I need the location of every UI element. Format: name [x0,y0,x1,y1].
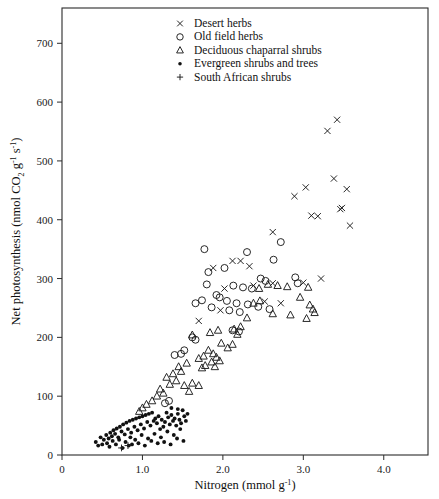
data-point-dot-filled [169,442,173,446]
series-group [161,239,301,407]
data-point-circle-open [230,282,237,289]
data-point-triangle-open [169,370,176,377]
y-tick-label: 200 [37,331,54,343]
data-point-dot-filled [123,432,127,436]
data-point-circle-open [248,285,255,292]
data-point-dot-filled [168,422,172,426]
legend-marker-triangle-open [177,47,184,53]
data-point-circle-open [221,264,228,271]
data-point-circle-open [203,281,210,288]
x-axis-title: Nitrogen (mmol g-1) [194,478,295,493]
data-point-cross-x [308,213,314,219]
data-point-cross-x [270,229,276,235]
data-point-triangle-open [296,293,303,300]
x-tick-label: 4.0 [377,463,391,475]
data-point-cross-x [291,193,297,199]
data-point-circle-open [161,400,168,407]
legend-marker-plus [177,74,183,80]
data-point-triangle-open [181,382,188,389]
data-point-circle-open [208,304,215,311]
data-point-triangle-open [256,297,263,304]
data-point-circle-open [205,269,212,276]
data-point-dot-filled [139,422,143,426]
data-point-dot-filled [182,414,186,418]
data-point-dot-filled [129,431,133,435]
data-point-dot-filled [169,406,173,410]
data-point-cross-x [237,258,243,264]
data-point-dot-filled [136,441,140,445]
data-points-layer [94,117,353,452]
data-point-triangle-open [189,379,196,386]
data-point-cross-x [221,285,227,291]
data-point-dot-filled [176,412,180,416]
data-point-dot-filled [163,420,167,424]
data-point-triangle-open [229,340,236,347]
data-point-triangle-open [303,315,310,322]
data-point-dot-filled [108,431,112,435]
legend-label: Evergreen shrubs and trees [194,57,319,70]
data-point-triangle-open [218,339,225,346]
data-point-dot-filled [94,440,98,444]
data-point-dot-filled [175,437,179,441]
data-point-dot-filled [128,435,132,439]
data-point-circle-open [236,309,243,316]
data-point-triangle-open [214,326,221,333]
data-point-triangle-open [206,329,213,336]
data-point-triangle-open [173,377,180,384]
data-point-dot-filled [126,427,130,431]
x-tick-label: 3.0 [296,463,310,475]
y-tick-label: 400 [37,214,54,226]
data-point-plus [177,74,183,80]
data-point-dot-filled [153,417,157,421]
data-point-dot-filled [124,440,128,444]
data-point-circle-open [223,297,230,304]
data-point-dot-filled [174,424,178,428]
data-point-circle-open [270,256,277,263]
series-group [136,280,319,414]
data-point-dot-filled [99,435,103,439]
data-point-dot-filled [165,411,169,415]
data-point-dot-filled [104,433,108,437]
data-point-dot-filled [108,445,112,449]
y-axis-title: Net photosynthesis (nmol CO2 g-1 s-1) [9,138,26,326]
legend-marker-circle-open [177,34,183,40]
y-tick-label: 500 [37,155,54,167]
data-point-dot-filled [107,437,111,441]
data-point-dot-filled [179,421,183,425]
y-tick-label: 700 [37,37,54,49]
data-point-cross-x [177,21,183,27]
data-point-dot-filled [157,414,161,418]
data-point-dot-filled [132,425,136,429]
x-tick-label: 0 [59,463,65,475]
data-point-dot-filled [145,420,149,424]
legend-label: South African shrubs [194,71,292,83]
data-point-dot-filled [166,415,170,419]
data-point-cross-x [229,258,235,264]
data-point-dot-filled [133,438,137,442]
legend-label: Deciduous chaparral shrubs [194,44,322,57]
data-point-dot-filled [117,438,121,442]
data-point-circle-open [198,297,205,304]
data-point-dot-filled [111,439,115,443]
legend-label: Old field herbs [194,30,264,42]
data-point-cross-x [334,117,340,123]
data-point-cross-x [347,223,353,229]
data-point-dot-filled [172,433,176,437]
y-tick-label: 0 [48,449,54,461]
data-point-cross-x [196,318,202,324]
data-point-dot-filled [140,433,144,437]
x-tick-label: 2.0 [216,463,230,475]
data-point-triangle-open [287,311,294,318]
data-point-cross-x [315,213,321,219]
legend-marker-dot-filled [178,62,182,66]
data-point-triangle-open [205,346,212,353]
data-point-dot-filled [161,425,165,429]
data-point-triangle-open [177,47,184,53]
data-point-dot-filled [113,432,117,436]
data-point-dot-filled [100,442,104,446]
data-point-triangle-open [148,397,155,404]
data-point-dot-filled [176,407,180,411]
data-point-triangle-open [177,367,184,374]
data-point-dot-filled [182,439,186,443]
data-point-cross-x [331,175,337,181]
